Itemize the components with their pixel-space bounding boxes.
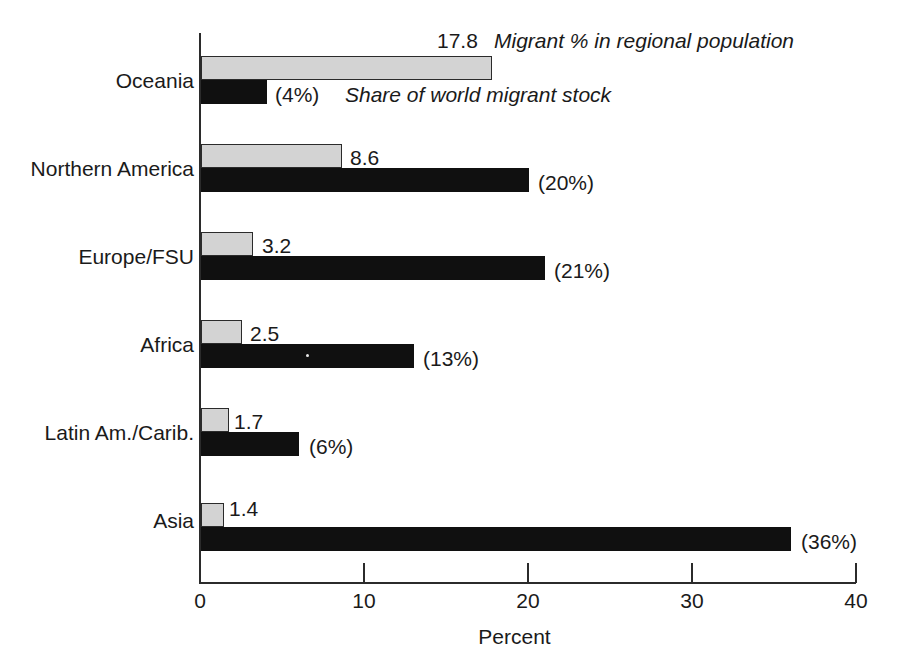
x-tick-0 [199, 563, 201, 583]
value-label-light-asia: 1.4 [229, 498, 258, 520]
bar-dark-europe-fsu [201, 256, 545, 280]
x-axis-title: Percent [0, 625, 899, 649]
x-tick-40 [855, 563, 857, 583]
value-label-light-europe-fsu: 3.2 [262, 235, 291, 257]
category-label-latin-america-caribbean: Latin Am./Carib. [0, 422, 194, 444]
x-tick-30 [691, 563, 693, 583]
legend-note-dark-series: Share of world migrant stock [345, 84, 611, 106]
x-tick-label-30: 30 [662, 589, 722, 613]
value-label-light-latin-america-caribbean: 1.7 [234, 411, 263, 433]
category-label-asia: Asia [0, 510, 194, 532]
value-label-dark-latin-america-caribbean: (6%) [309, 436, 353, 458]
bar-dark-northern-america [201, 168, 529, 192]
bar-light-oceania [201, 56, 492, 80]
category-label-europe-fsu: Europe/FSU [0, 246, 194, 268]
category-label-northern-america: Northern America [0, 158, 194, 180]
value-label-dark-northern-america: (20%) [538, 172, 594, 194]
bar-chart: 0 10 20 30 40 Percent Oceania 17.8 (4%) … [0, 0, 899, 671]
value-label-dark-asia: (36%) [801, 531, 857, 553]
x-axis-title-text: Percent [478, 625, 550, 649]
x-tick-20 [527, 563, 529, 583]
value-label-dark-oceania: (4%) [275, 84, 319, 106]
bar-light-africa [201, 320, 242, 344]
bar-dark-africa [201, 344, 414, 368]
bar-dark-oceania [201, 80, 267, 104]
category-label-oceania: Oceania [0, 70, 194, 92]
bar-light-northern-america [201, 144, 342, 168]
bar-light-europe-fsu [201, 232, 253, 256]
x-tick-label-20: 20 [498, 589, 558, 613]
x-tick-label-40: 40 [826, 589, 886, 613]
x-tick-10 [363, 563, 365, 583]
y-axis-line [199, 33, 201, 584]
x-tick-label-0: 0 [170, 589, 230, 613]
value-label-light-northern-america: 8.6 [350, 147, 379, 169]
category-label-africa: Africa [0, 334, 194, 356]
bar-light-asia [201, 503, 224, 527]
value-label-light-africa: 2.5 [250, 323, 279, 345]
value-label-dark-europe-fsu: (21%) [554, 260, 610, 282]
bar-light-latin-america-caribbean [201, 408, 229, 432]
value-label-dark-africa: (13%) [423, 348, 479, 370]
value-label-light-oceania: 17.8 [437, 30, 478, 52]
bar-dark-latin-america-caribbean [201, 432, 299, 456]
bar-dark-asia [201, 527, 791, 551]
scan-dot-artifact [306, 354, 309, 357]
legend-note-light-series: Migrant % in regional population [494, 30, 794, 52]
x-tick-label-10: 10 [334, 589, 394, 613]
